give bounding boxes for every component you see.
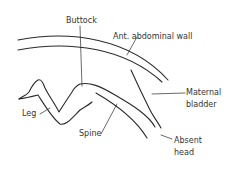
maternal-bladder-leader — [152, 93, 185, 94]
buttock-leader — [80, 26, 82, 86]
label-spine: Spine — [79, 129, 101, 138]
abdominal-wall-inner — [18, 46, 162, 82]
label-abdominal-wall: Ant. abdominal wall — [113, 32, 192, 41]
spine-leader — [101, 104, 117, 134]
fetal-anatomy-diagram: Buttock Ant. abdominal wall Maternal bla… — [0, 0, 252, 169]
absent-head-leader — [161, 135, 172, 139]
fetal-leg-outline — [19, 80, 155, 127]
diagram-drawing — [0, 0, 252, 169]
label-leg: Leg — [22, 109, 36, 118]
abdominal-wall-outer — [18, 36, 168, 80]
label-buttock: Buttock — [66, 16, 97, 25]
fetal-spine — [96, 93, 147, 138]
label-absent-head-line2: head — [174, 148, 194, 157]
maternal-bladder-outline — [131, 70, 161, 128]
label-maternal-bladder-line1: Maternal — [186, 88, 221, 97]
label-absent-head-line1: Absent — [174, 136, 202, 145]
label-maternal-bladder-line2: bladder — [186, 100, 217, 109]
